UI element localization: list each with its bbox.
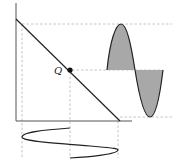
q-point-label: Q — [54, 65, 62, 76]
output-waveform — [107, 24, 163, 117]
q-point — [67, 67, 72, 72]
load-line-diagram: Q — [0, 0, 174, 168]
